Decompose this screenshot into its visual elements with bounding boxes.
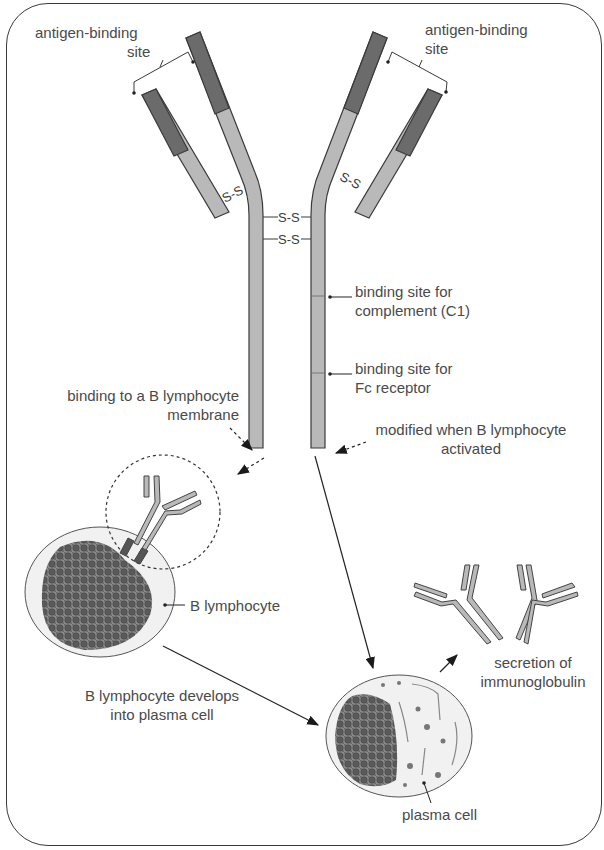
secreted-antibody-right <box>516 565 578 644</box>
label-antigen-binding-site-right: antigen-binding site <box>425 20 528 58</box>
svg-text:S-S: S-S <box>278 232 300 247</box>
secretion-arrow <box>440 655 457 672</box>
svg-text:S-S: S-S <box>278 210 300 225</box>
plasma-cell <box>326 675 472 803</box>
label-membrane-binding: binding to a B lymphocyte membrane <box>36 386 239 424</box>
light-chain-right <box>355 89 442 218</box>
svg-text:S-S: S-S <box>337 169 363 193</box>
to-plasma-arrow <box>315 456 373 668</box>
label-modified-activated: modified when B lymphocyte activated <box>355 420 587 458</box>
b-lymphocyte-cell <box>25 527 185 657</box>
label-b-lymphocyte: B lymphocyte <box>190 596 280 615</box>
label-develops-into-plasma: B lymphocyte develops into plasma cell <box>62 686 262 724</box>
label-plasma-cell: plasma cell <box>402 805 477 824</box>
label-fc-receptor-site: binding site for Fc receptor <box>355 359 453 397</box>
secreted-antibody-left <box>414 565 503 644</box>
label-secretion: secretion of immunoglobulin <box>472 653 594 691</box>
label-complement-site: binding site for complement (C1) <box>355 282 470 320</box>
label-antigen-binding-site-left: antigen-binding site <box>35 23 150 61</box>
